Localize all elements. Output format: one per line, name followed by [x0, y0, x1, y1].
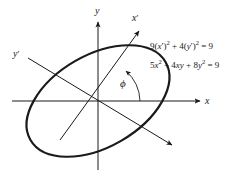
eq2-op1: + 4 [162, 60, 176, 70]
eq2-tail: = 9 [205, 60, 219, 70]
y-axis-label: y [95, 6, 99, 16]
angle-arc [126, 71, 140, 101]
x-axis-label: x [205, 96, 209, 106]
original-frame-equation: 5x2 + 4xy + 8y2 = 9 [150, 61, 219, 70]
y-prime-axis-label: y′ [13, 49, 19, 59]
eq1-tail: = 9 [199, 41, 213, 51]
phi-angle-label: ϕ [120, 78, 126, 89]
x-prime-axis-label: x′ [132, 13, 138, 23]
eq1-lead: 9( [150, 41, 158, 51]
x-prime-axis-line [60, 31, 139, 140]
eq2-var2: xy [176, 60, 184, 70]
ellipse-rotation-diagram: y x x′ y′ ϕ 9(x′)2 + 4(y′)2 = 9 5x2 + 4x… [0, 0, 245, 177]
y-prime-mark: ′ [17, 49, 19, 59]
eq2-op2: + 8 [184, 60, 198, 70]
x-prime-mark: ′ [136, 13, 138, 23]
rotated-frame-equation: 9(x′)2 + 4(y′)2 = 9 [150, 42, 213, 51]
eq1-plus: + 4( [170, 41, 187, 51]
